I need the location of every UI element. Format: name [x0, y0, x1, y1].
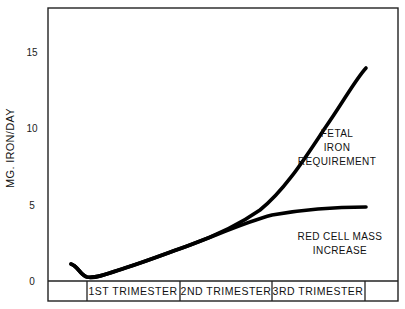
y-tick-label: 10	[26, 123, 38, 134]
category-label-2nd-trimester: 2ND TRIMESTER	[181, 285, 272, 297]
plot-frame	[48, 8, 398, 301]
red-cell-mass-annotation: RED CELL MASS INCREASE	[298, 231, 383, 256]
chart-canvas: 0 5 10 15 MG. IRON/DAY 1ST TRIMESTER 2ND…	[0, 0, 405, 309]
y-tick-label: 0	[29, 276, 35, 287]
category-label-1st-trimester: 1ST TRIMESTER	[89, 285, 178, 297]
svg-text:INCREASE: INCREASE	[313, 245, 367, 256]
svg-text:FETAL: FETAL	[321, 128, 353, 139]
y-tick-label: 5	[29, 200, 35, 211]
svg-text:IRON: IRON	[324, 142, 351, 153]
fetal-iron-annotation: FETAL IRON REQUIREMENT	[298, 128, 376, 167]
svg-text:REQUIREMENT: REQUIREMENT	[298, 156, 376, 167]
category-label-3rd-trimester: 3RD TRIMESTER	[273, 285, 364, 297]
red-cell-mass-increase-curve	[71, 207, 366, 277]
y-tick-label: 15	[26, 47, 38, 58]
svg-text:RED CELL MASS: RED CELL MASS	[298, 231, 383, 242]
y-axis-label: MG. IRON/DAY	[4, 108, 16, 188]
